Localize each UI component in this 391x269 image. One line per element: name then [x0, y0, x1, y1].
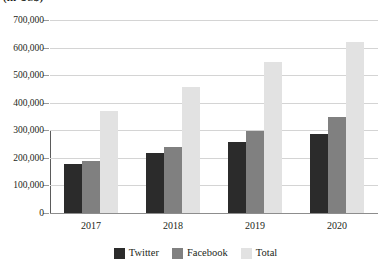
bar-chart: (in US$) TwitterFacebookTotal 0100,00020… [0, 0, 391, 269]
legend-label: Facebook [187, 247, 228, 259]
gridline [50, 213, 378, 214]
bar-total-2020 [346, 42, 364, 213]
bar-facebook-2018 [164, 147, 182, 213]
bar-total-2018 [182, 87, 200, 213]
legend-swatch-icon [172, 248, 183, 259]
bar-total-2017 [100, 111, 118, 213]
bar-facebook-2020 [328, 117, 346, 213]
bar-twitter-2019 [228, 142, 246, 213]
chart-legend: TwitterFacebookTotal [0, 247, 391, 259]
x-axis-tick-label-2017: 2017 [50, 220, 132, 232]
bar-total-2019 [264, 62, 282, 213]
bar-group-2018 [146, 20, 200, 213]
bar-facebook-2019 [246, 131, 264, 213]
x-axis-tick-label-2020: 2020 [296, 220, 378, 232]
bar-twitter-2018 [146, 153, 164, 213]
legend-entry-facebook[interactable]: Facebook [172, 247, 228, 259]
legend-label: Twitter [129, 247, 159, 259]
y-axis-tick-label: 300,000 [0, 125, 44, 135]
legend-entry-total[interactable]: Total [241, 247, 277, 259]
y-axis-tick-label: 400,000 [0, 98, 44, 108]
bar-twitter-2020 [310, 134, 328, 213]
bar-facebook-2017 [82, 161, 100, 213]
x-axis-tick-label-2018: 2018 [132, 220, 214, 232]
bar-group-2017 [64, 20, 118, 213]
y-axis-tick-label: 500,000 [0, 70, 44, 80]
y-axis-tick-label: 0 [0, 208, 44, 218]
axis-unit-caption: (in US$) [3, 0, 43, 4]
y-axis-spine [50, 130, 51, 214]
legend-swatch-icon [114, 248, 125, 259]
legend-swatch-icon [241, 248, 252, 259]
legend-entry-twitter[interactable]: Twitter [114, 247, 159, 259]
plot-area [50, 20, 378, 213]
x-axis-tick-label-2019: 2019 [214, 220, 296, 232]
y-axis-tick-label: 100,000 [0, 180, 44, 190]
legend-label: Total [256, 247, 277, 259]
bar-twitter-2017 [64, 164, 82, 213]
bar-group-2020 [310, 20, 364, 213]
y-axis-tick-label: 700,000 [0, 15, 44, 25]
bar-group-2019 [228, 20, 282, 213]
y-axis-tick-label: 200,000 [0, 153, 44, 163]
y-axis-tick-label: 600,000 [0, 43, 44, 53]
